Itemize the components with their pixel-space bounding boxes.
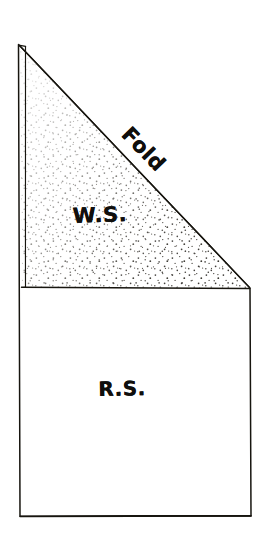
right-side-label: R.S. [98,376,146,401]
stipple-fill-region [0,0,267,540]
fabric-outline-svg [0,0,267,540]
fold-diagram: Fold W.S. R.S. [0,0,267,540]
wrong-side-label: W.S. [72,202,127,228]
